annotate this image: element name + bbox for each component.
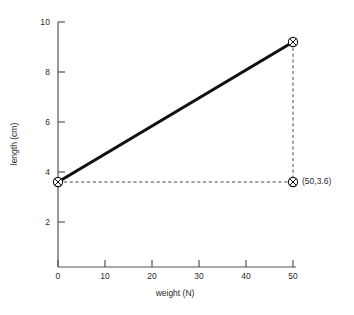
x-tick-label-40: 40 bbox=[241, 271, 251, 281]
y-tick-marks bbox=[58, 22, 65, 222]
y-tick-label-6: 6 bbox=[30, 117, 50, 127]
chart-figure: 10 8 6 4 2 0 10 20 30 40 50 weight (N) l… bbox=[0, 0, 354, 315]
y-axis-title: length (cm) bbox=[9, 123, 19, 166]
plot-canvas bbox=[0, 0, 354, 315]
y-tick-label-4: 4 bbox=[30, 167, 50, 177]
y-tick-label-10: 10 bbox=[30, 17, 50, 27]
marker-annotated-point bbox=[288, 177, 297, 186]
y-tick-label-2: 2 bbox=[30, 217, 50, 227]
marker-upper-right bbox=[288, 37, 297, 46]
x-tick-label-0: 0 bbox=[56, 271, 61, 281]
marker-lower-left bbox=[53, 177, 62, 186]
data-line-series-1 bbox=[58, 42, 293, 182]
y-tick-label-8: 8 bbox=[30, 67, 50, 77]
x-tick-label-10: 10 bbox=[100, 271, 110, 281]
coordinate-annotation-label: (50,3.6) bbox=[302, 176, 331, 186]
x-tick-marks bbox=[58, 260, 293, 267]
axis-lines bbox=[58, 22, 296, 267]
x-tick-label-50: 50 bbox=[288, 271, 298, 281]
x-axis-title: weight (N) bbox=[156, 288, 195, 298]
x-tick-label-20: 20 bbox=[147, 271, 157, 281]
x-tick-label-30: 30 bbox=[194, 271, 204, 281]
